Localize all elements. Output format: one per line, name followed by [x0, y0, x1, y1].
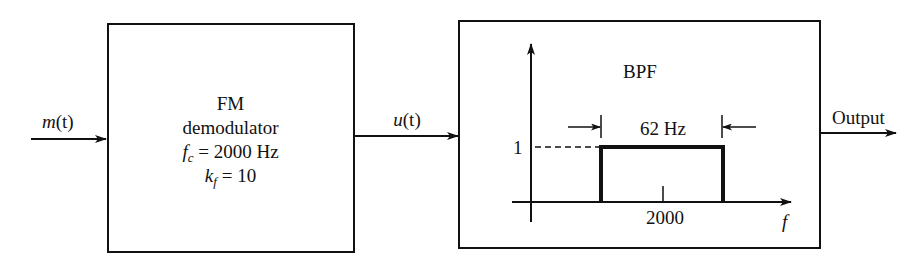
fm-title: FM: [107, 92, 354, 116]
bpf-passband: [601, 147, 723, 202]
kf-value: = 10: [217, 165, 256, 186]
fm-demodulator-label: FM demodulator fc = 2000 Hz kf = 10: [107, 92, 354, 188]
fc-value: = 2000 Hz: [193, 141, 278, 162]
fm-subtitle: demodulator: [107, 116, 354, 140]
intermediate-signal-var: u: [393, 109, 403, 130]
bpf-title: BPF: [623, 62, 657, 81]
frequency-axis-label: f: [782, 212, 787, 231]
bandwidth-label: 62 Hz: [640, 119, 686, 138]
carrier-frequency-param: fc = 2000 Hz: [107, 140, 354, 164]
input-signal-var: m: [42, 111, 56, 132]
input-signal-arg: (t): [56, 111, 74, 132]
deviation-constant-param: kf = 10: [107, 164, 354, 188]
center-frequency-label: 2000: [646, 208, 684, 227]
input-signal-label: m(t): [42, 112, 74, 131]
intermediate-signal-arg: (t): [403, 109, 421, 130]
gain-label: 1: [513, 138, 523, 157]
intermediate-signal-label: u(t): [393, 110, 420, 129]
output-label: Output: [832, 108, 885, 127]
